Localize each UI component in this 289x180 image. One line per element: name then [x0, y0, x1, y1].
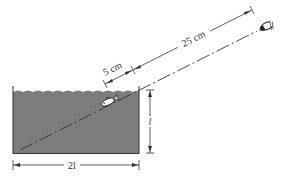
- eye-icon: [258, 19, 276, 35]
- distance-dimension: 5 cm 25 cm: [99, 6, 254, 88]
- label-25cm: 25 cm: [180, 28, 207, 49]
- label-width: 2l: [68, 160, 76, 171]
- depth-dimension: l: [146, 90, 154, 153]
- width-dimension: 2l: [13, 159, 139, 171]
- label-depth: l: [149, 116, 152, 127]
- diagram-canvas: 5 cm 25 cm l 2l: [0, 0, 289, 180]
